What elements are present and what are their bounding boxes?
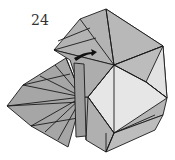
origami-diagram: 24 (0, 0, 175, 160)
vertical-strip (74, 63, 86, 137)
origami-model (0, 0, 175, 160)
